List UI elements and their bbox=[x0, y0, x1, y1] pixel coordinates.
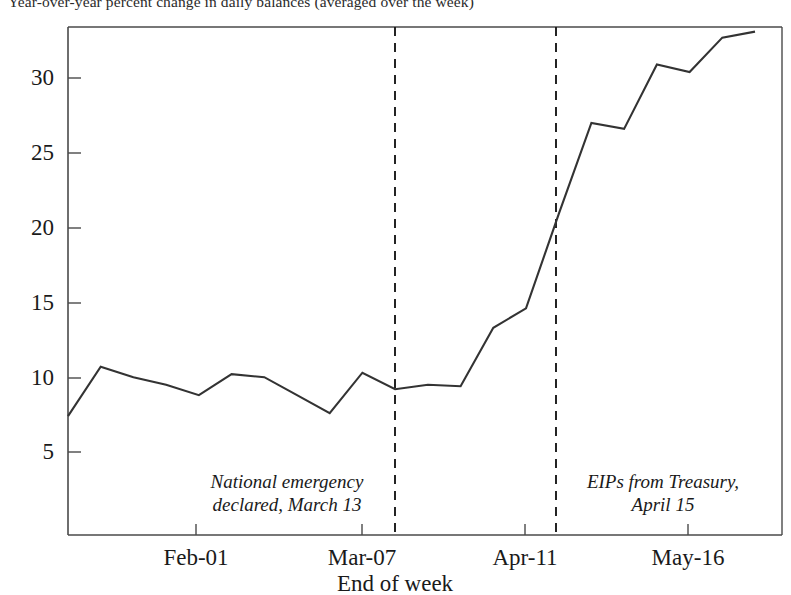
x-axis-title: End of week bbox=[305, 572, 485, 595]
x-tick-label-mar-07: Mar-07 bbox=[292, 546, 432, 569]
y-tick-label-25: 25 bbox=[8, 141, 54, 164]
annotation-eips-treasury: EIPs from Treasury, April 15 bbox=[568, 470, 758, 516]
y-tick-label-10: 10 bbox=[8, 366, 54, 389]
y-tick-label-15: 15 bbox=[8, 291, 54, 314]
y-tick-label-5: 5 bbox=[8, 440, 54, 463]
x-axis-ticks bbox=[196, 524, 688, 535]
chart-figure: Year-over-year percent change in daily b… bbox=[0, 0, 791, 595]
plot-frame bbox=[68, 27, 782, 535]
x-tick-label-may-16: May-16 bbox=[618, 546, 758, 569]
y-tick-label-20: 20 bbox=[8, 216, 54, 239]
x-tick-label-feb-01: Feb-01 bbox=[126, 546, 266, 569]
data-line-series-0 bbox=[68, 32, 755, 417]
y-axis-ticks bbox=[68, 78, 81, 452]
annotation-national-emergency: National emergency declared, March 13 bbox=[182, 470, 392, 516]
x-tick-label-apr-11: Apr-11 bbox=[455, 546, 595, 569]
y-tick-label-30: 30 bbox=[8, 66, 54, 89]
